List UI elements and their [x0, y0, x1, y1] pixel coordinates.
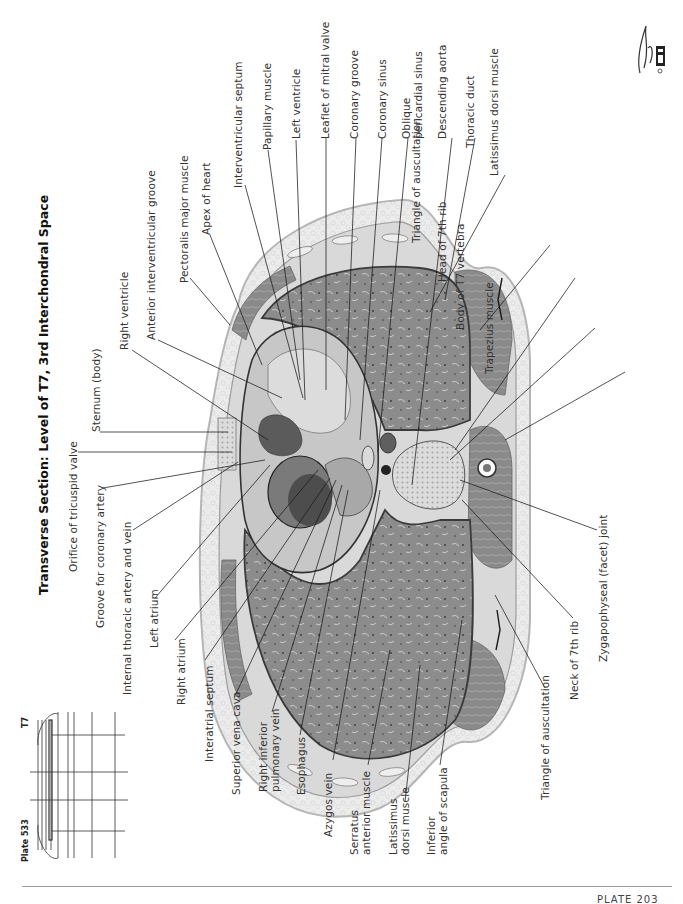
label-coronary-groove: Coronary groove — [348, 50, 360, 139]
label-latissimus-dorsi-muscle-top: Latissimus dorsi muscle — [488, 48, 500, 176]
label-body-of-t7-vertebra: Body of T7 vertebra — [454, 223, 466, 330]
label-triangle-of-auscultation-top: Triangle of auscultation — [410, 118, 422, 243]
label-internal-thoracic-artery-and-vein: Internal thoracic artery and vein — [121, 522, 133, 695]
plate-title: Transverse Section: Level of T7, 3rd Int… — [36, 195, 51, 595]
label-apex-of-heart: Apex of heart — [200, 163, 212, 235]
label-left-atrium: Left atrium — [148, 589, 160, 648]
footer-plate-number: PLATE 203 — [597, 894, 659, 904]
label-serratus-anterior-muscle: Serratus anterior muscle — [348, 771, 372, 855]
label-right-inferior-pulmonary-vein: Right inferior pulmonary vein — [257, 709, 281, 793]
cross-section-illustration — [0, 0, 683, 904]
label-triangle-of-auscultation-bottom: Triangle of auscultation — [539, 675, 551, 800]
footer-rule — [22, 886, 672, 887]
label-inferior-angle-of-scapula: Inferior angle of scapula — [425, 767, 449, 855]
label-zygapophyseal-facet-joint: Zygapophyseal (facet) joint — [597, 515, 609, 663]
label-left-ventricle: Left ventricle — [290, 69, 302, 139]
label-esophagus: Esophagus — [295, 737, 307, 795]
label-head-of-7th-rib: Head of 7th rib — [436, 202, 448, 282]
label-sternum-body: Sternum (body) — [90, 348, 102, 432]
label-interventricular-septum: Interventricular septum — [232, 61, 244, 188]
label-right-atrium: Right atrium — [175, 638, 187, 705]
label-papillary-muscle: Papillary muscle — [261, 63, 273, 150]
label-coronary-sinus: Coronary sinus — [376, 59, 388, 139]
label-leaflet-of-mitral-valve: Leaflet of mitral valve — [319, 22, 331, 139]
label-right-ventricle: Right ventricle — [118, 272, 130, 350]
label-descending-aorta: Descending aorta — [436, 45, 448, 139]
label-neck-of-7th-rib: Neck of 7th rib — [568, 621, 580, 700]
label-orifice-of-tricuspid-valve: Orifice of tricuspid valve — [67, 441, 79, 572]
label-anterior-interventricular-groove: Anterior interventricular groove — [145, 170, 157, 340]
label-trapezius-muscle: Trapezius muscle — [483, 282, 495, 374]
key-diagram — [30, 712, 128, 859]
label-groove-for-coronary-artery: Groove for coronary artery — [94, 485, 106, 628]
artist-signature-logo — [632, 18, 672, 78]
plate-number-label: Plate 533 — [21, 819, 30, 862]
level-marker-t7: T7 — [21, 717, 30, 728]
label-interatrial-septum: Interatrial septum — [203, 665, 215, 762]
label-pectoralis-major-muscle: Pectoralis major muscle — [178, 155, 190, 283]
label-thoracic-duct: Thoracic duct — [464, 75, 476, 148]
label-latissimus-dorsi-muscle-bottom: Latissimus dorsi muscle — [387, 787, 411, 855]
label-superior-vena-cava: Superior vena cava — [230, 691, 242, 795]
label-azygos-vein: Azygos vein — [322, 773, 334, 837]
